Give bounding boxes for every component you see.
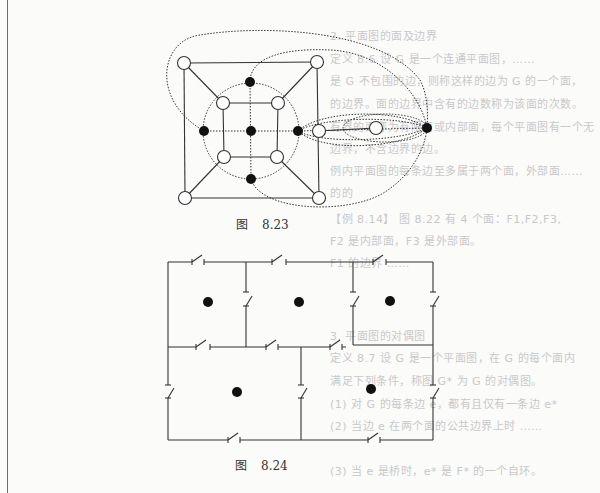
region-dot-5 bbox=[366, 384, 376, 394]
switches bbox=[165, 255, 439, 443]
switch-v-6 bbox=[430, 385, 439, 398]
figure-8-23-caption: 图8.23 bbox=[236, 215, 289, 232]
region-dot-2 bbox=[294, 297, 304, 307]
switch-mid-1 bbox=[196, 340, 210, 350]
switch-top-2 bbox=[272, 255, 286, 265]
region-dot-1 bbox=[203, 297, 213, 307]
switch-bottom-2 bbox=[368, 433, 380, 443]
figure-8-24-caption: 图8.24 bbox=[235, 456, 288, 473]
switch-v-1 bbox=[243, 292, 252, 306]
switch-v-2 bbox=[350, 292, 359, 306]
switch-bottom-1 bbox=[228, 433, 240, 443]
caption-prefix: 图 bbox=[236, 218, 248, 232]
region-dot-4 bbox=[232, 387, 242, 397]
switch-v-3 bbox=[430, 292, 439, 306]
caption-number: 8.24 bbox=[261, 459, 288, 473]
switch-top-1 bbox=[192, 255, 204, 265]
switch-mid-2 bbox=[266, 340, 278, 350]
switch-v-5 bbox=[298, 385, 307, 398]
circuit-wires bbox=[168, 262, 433, 440]
caption-prefix: 图 bbox=[235, 459, 247, 473]
region-dot-3 bbox=[385, 296, 395, 306]
switch-mid-3 bbox=[330, 340, 342, 350]
figure-8-24-circuit bbox=[0, 0, 600, 493]
switch-top-3 bbox=[373, 255, 386, 265]
caption-number: 8.23 bbox=[262, 218, 289, 232]
switch-v-4 bbox=[165, 385, 174, 398]
